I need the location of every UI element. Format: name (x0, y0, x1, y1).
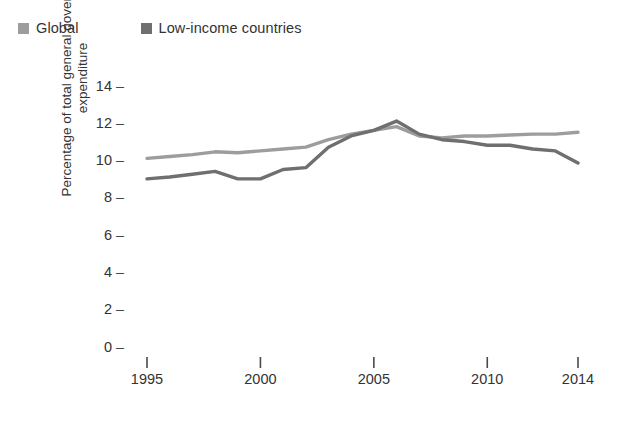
chart-figure: Global Low-income countries Percentage o… (0, 0, 620, 422)
y-axis-tick-label-12: 12 (86, 115, 112, 131)
series-line-low-income-countries (147, 121, 578, 179)
y-axis-tick-label-2: 2 (86, 301, 112, 317)
y-axis-tick-label-14: 14 (86, 78, 112, 94)
y-axis-tick-mark-4: – (116, 264, 124, 280)
y-axis-tick-mark-6: – (116, 227, 124, 243)
x-axis-tick-label-1995: 1995 (122, 371, 172, 387)
y-axis-tick-label-6: 6 (86, 227, 112, 243)
y-axis-tick-label-0: 0 (86, 339, 112, 355)
y-axis-tick-mark-0: – (116, 339, 124, 355)
x-axis-tick-label-2005: 2005 (349, 371, 399, 387)
y-axis-tick-mark-14: – (116, 78, 124, 94)
y-axis-tick-mark-8: – (116, 189, 124, 205)
y-axis-tick-mark-12: – (116, 115, 124, 131)
x-axis-tick-label-2010: 2010 (462, 371, 512, 387)
y-axis-tick-label-10: 10 (86, 152, 112, 168)
y-axis-tick-mark-2: – (116, 301, 124, 317)
plot-area: 0–2–4–6–8–10–12–14–19952000200520102014 (0, 0, 620, 422)
y-axis-tick-label-8: 8 (86, 189, 112, 205)
x-axis-tick-label-2000: 2000 (235, 371, 285, 387)
series-line-global (147, 127, 578, 159)
y-axis-tick-mark-10: – (116, 152, 124, 168)
x-axis-tick-label-2014: 2014 (553, 371, 603, 387)
y-axis-tick-label-4: 4 (86, 264, 112, 280)
plot-svg (0, 0, 620, 422)
